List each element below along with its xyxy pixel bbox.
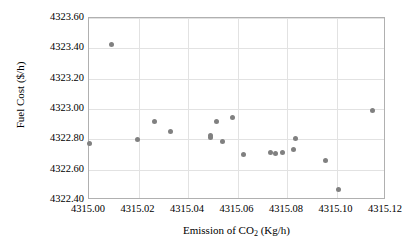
gridline-horizontal: [89, 109, 384, 110]
data-point: [323, 158, 328, 163]
data-point: [152, 119, 157, 124]
plot-area: [88, 17, 385, 199]
data-point: [241, 152, 246, 157]
data-point: [273, 151, 278, 156]
data-point: [336, 187, 341, 192]
data-point: [168, 129, 173, 134]
y-axis-tick-label: 4322.60: [0, 164, 84, 175]
x-axis-title-prefix: Emission of CO: [183, 224, 254, 236]
gridline-vertical: [238, 18, 239, 198]
data-point: [291, 147, 296, 152]
gridline-horizontal: [89, 139, 384, 140]
gridline-vertical: [287, 18, 288, 198]
data-point: [214, 119, 219, 124]
x-axis-tick-label: 4315.12: [353, 203, 417, 215]
data-point: [370, 108, 375, 113]
gridline-vertical: [188, 18, 189, 198]
data-point: [109, 42, 114, 47]
data-point: [220, 139, 225, 144]
gridline-horizontal: [89, 170, 384, 171]
scatter-chart-figure: 4322.404322.604322.804323.004323.204323.…: [0, 0, 418, 247]
x-axis-title-suffix: (Kg/h): [258, 224, 290, 236]
data-point: [230, 115, 235, 120]
x-axis-title: Emission of CO2 (Kg/h): [88, 223, 385, 241]
data-point: [280, 150, 285, 155]
gridline-horizontal: [89, 48, 384, 49]
gridline-vertical: [139, 18, 140, 198]
data-point: [293, 136, 298, 141]
gridline-vertical: [337, 18, 338, 198]
gridline-horizontal: [89, 18, 384, 19]
gridline-horizontal: [89, 79, 384, 80]
y-axis-title: Fuel Cost ($/h): [13, 35, 27, 155]
data-point: [87, 141, 92, 146]
data-point: [135, 137, 140, 142]
y-axis-tick-label: 4323.60: [0, 12, 84, 23]
